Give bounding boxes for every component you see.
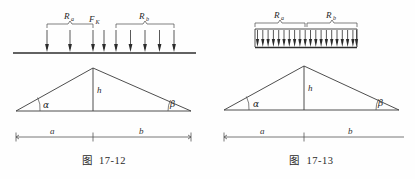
figure-17-12: R a F K R b [0,0,208,179]
bracket-reaction-a [47,21,93,28]
triangle-right-rafter [93,68,191,111]
bracket-reaction-b [116,21,174,28]
load-arrows-group-b [114,30,176,52]
figure-caption-17-13: 图17-13 [208,152,415,167]
label-reaction-a-sub: a [71,16,74,22]
label-span-a: a [260,126,265,136]
label-angle-beta: β [169,99,175,109]
angle-arc-alpha [246,97,249,111]
label-point-force-sub: K [95,19,101,25]
label-point-force: F [88,14,95,24]
label-height: h [308,83,313,93]
caption-number: 17-12 [99,155,126,166]
triangle-left-rafter [16,68,93,111]
dimension-line [224,133,404,142]
load-arrows-group-a [45,30,95,52]
caption-number: 17-13 [307,155,334,166]
label-height: h [97,85,102,95]
figure-sheet: R a F K R b [0,0,415,179]
angle-arc-alpha [38,98,41,112]
bracket-reaction-a [255,20,305,27]
label-span-b: b [139,126,144,136]
caption-label: 图 [82,155,92,166]
label-reaction-b-sub: b [146,16,149,22]
label-reaction-a-sub: a [281,15,284,21]
triangle-right-rafter [304,66,399,110]
label-reaction-b: R [138,11,145,21]
label-reaction-b: R [325,10,332,20]
label-reaction-a: R [63,11,70,21]
label-reaction-a: R [273,10,280,20]
caption-label: 图 [289,155,299,166]
label-reaction-b-sub: b [333,15,336,21]
bracket-reaction-b [307,20,357,27]
load-arrow-point-force [102,30,106,52]
figure-caption-17-12: 图17-12 [0,152,208,167]
figure-17-12-drawing: R a F K R b [0,0,208,152]
distributed-load-band [255,29,358,48]
label-span-a: a [50,126,55,136]
label-angle-alpha: α [253,99,259,109]
distributed-load-arrows [256,30,358,47]
figure-17-13: R a R b [208,0,415,179]
label-angle-alpha: α [43,100,49,110]
figure-17-13-drawing: R a R b [208,0,415,152]
triangle-left-rafter [224,66,304,110]
label-angle-beta: β [377,98,383,108]
label-span-b: b [348,126,353,136]
dimension-line [16,133,191,142]
